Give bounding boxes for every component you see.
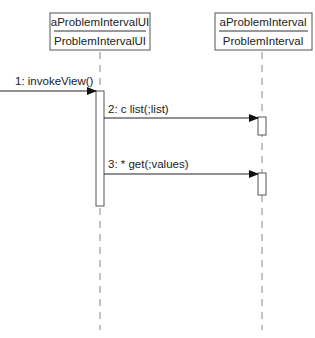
activation-bar [258,117,266,135]
message-2: 2: c list(;list) [104,103,258,118]
lifeline-aProblemIntervalUI: aProblemIntervalUI ProblemIntervalUI [50,13,150,330]
lifeline-aProblemInterval: aProblemInterval ProblemInterval [215,13,312,330]
object-instance-name: aProblemInterval [220,16,307,28]
activation-bar [96,91,104,206]
object-instance-name: aProblemIntervalUI [51,16,149,28]
object-class-name: ProblemInterval [223,35,304,47]
message-label: 2: c list(;list) [108,103,169,115]
sequence-diagram: aProblemIntervalUI ProblemIntervalUI aPr… [0,0,315,338]
message-label: 3: * get(;values) [108,158,189,170]
activation-bar [258,173,266,195]
object-class-name: ProblemIntervalUI [54,35,146,47]
message-label: 1: invokeView() [15,75,94,87]
message-3: 3: * get(;values) [104,158,258,174]
message-1: 1: invokeView() [0,75,96,91]
